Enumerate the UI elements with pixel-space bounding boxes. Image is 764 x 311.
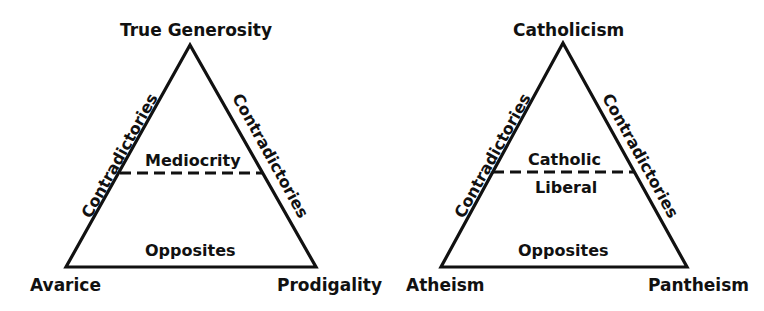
- right-dashed-above-label: Catholic: [528, 152, 601, 168]
- right-top-label: Catholicism: [513, 22, 624, 39]
- right-dashed-below-label: Liberal: [535, 180, 597, 196]
- diagram-canvas: True Generosity Avarice Prodigality Cont…: [0, 0, 764, 311]
- right-bottom-left-label: Atheism: [406, 277, 485, 294]
- left-bottom-left-label: Avarice: [30, 277, 101, 294]
- left-top-label: True Generosity: [120, 22, 272, 39]
- right-bottom-right-label: Pantheism: [648, 277, 749, 294]
- left-dashed-above-label: Mediocrity: [145, 153, 241, 169]
- left-bottom-right-label: Prodigality: [277, 277, 382, 294]
- right-base-label: Opposites: [518, 243, 609, 259]
- left-base-label: Opposites: [145, 243, 236, 259]
